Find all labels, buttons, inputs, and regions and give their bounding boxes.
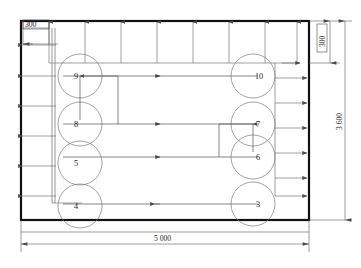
dimension-label-right-height: 3 600 — [335, 113, 344, 130]
left-arrow-group — [23, 45, 56, 196]
right-dimension-group: 300 3 600 — [309, 21, 352, 220]
circle-label-7: 7 — [256, 120, 260, 129]
internal-leader-details — [80, 76, 253, 157]
dimension-label-right-top: 300 — [318, 35, 327, 47]
technical-drawing-svg: 300 — [0, 0, 361, 268]
top-arrow-group — [49, 22, 297, 63]
circle-label-6: 6 — [256, 153, 260, 162]
circle-left-4[interactable] — [58, 184, 102, 228]
dimension-label-top-left: 300 — [25, 20, 37, 29]
dimension-label-bottom-width: 5 000 — [154, 234, 171, 243]
bottom-dimension-group: 5 000 — [21, 220, 309, 252]
drawing-canvas: 300 — [0, 0, 361, 268]
right-arrow-group — [275, 63, 307, 196]
circle-label-8: 8 — [74, 120, 78, 129]
circle-label-5: 5 — [74, 159, 78, 168]
circle-label-3: 3 — [256, 200, 260, 209]
flow-lines-group — [63, 76, 258, 204]
circle-label-9: 9 — [74, 72, 78, 81]
circle-label-4: 4 — [74, 202, 78, 211]
outer-wall-boundary — [21, 21, 309, 220]
circle-left-5[interactable] — [58, 141, 102, 185]
top-left-dimension: 300 — [23, 20, 58, 44]
circle-label-10: 10 — [255, 72, 263, 81]
